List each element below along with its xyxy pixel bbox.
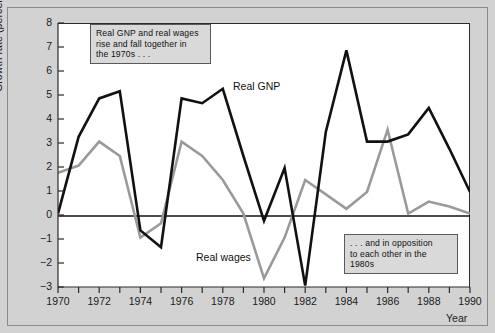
annotation-1-line-3: the 1970s . . . bbox=[96, 49, 205, 60]
axis-ticks-svg bbox=[0, 0, 495, 333]
annotation-1970s-note: Real GNP and real wages rise and fall to… bbox=[90, 24, 211, 64]
annotation-2-line-3: 1980s bbox=[350, 259, 452, 270]
figure-container: Growth rate (percent per year) Year −3−2… bbox=[0, 0, 495, 333]
annotation-1-line-1: Real GNP and real wages bbox=[96, 28, 205, 39]
series-label-real-gnp: Real GNP bbox=[233, 80, 280, 92]
series-label-real-wages: Real wages bbox=[196, 251, 251, 263]
annotation-1-line-2: rise and fall together in bbox=[96, 39, 205, 50]
annotation-1980s-note: . . . and in opposition to each other in… bbox=[344, 234, 458, 274]
annotation-2-line-2: to each other in the bbox=[350, 249, 452, 260]
annotation-2-line-1: . . . and in opposition bbox=[350, 238, 452, 249]
